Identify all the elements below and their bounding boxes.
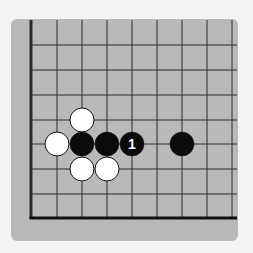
black-stone [170,132,194,156]
white-stone [45,132,69,156]
go-board: 1 [0,0,253,253]
black-stone [95,132,119,156]
white-stone [95,157,119,181]
move-number-label: 1 [128,136,136,152]
white-stone [70,108,94,132]
white-stone [70,157,94,181]
black-stone [70,132,94,156]
